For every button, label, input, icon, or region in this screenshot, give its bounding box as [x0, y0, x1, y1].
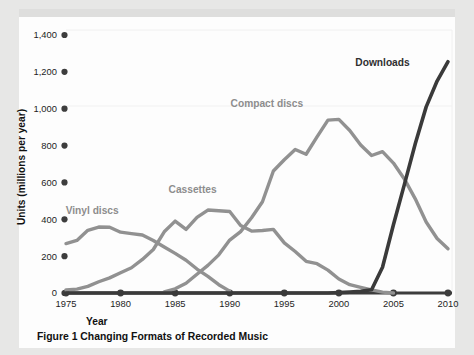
- y-tick-dot: [61, 32, 67, 38]
- y-tick-dot: [61, 106, 67, 112]
- figure-caption: Figure 1 Changing Formats of Recorded Mu…: [37, 331, 268, 342]
- x-tick-label: 1995: [274, 298, 295, 309]
- chart-svg: 02004006008001,0001,2001,400 19751980198…: [0, 0, 474, 355]
- y-tick-label: 1,000: [34, 103, 57, 114]
- x-tick-label: 1990: [219, 298, 240, 309]
- y-tick-dot: [61, 142, 67, 148]
- x-axis-title: Year: [86, 316, 108, 327]
- y-axis-title: Units (millions per year): [16, 109, 27, 225]
- y-axis-ticks: 02004006008001,0001,2001,400: [34, 29, 68, 298]
- y-tick-dot: [61, 253, 67, 259]
- series-line-downloads: [66, 62, 448, 293]
- series-label-vinyl-discs: Vinyl discs: [66, 205, 119, 216]
- y-tick-label: 1,200: [34, 66, 57, 77]
- y-tick-label: 400: [41, 214, 57, 225]
- x-tick-label: 2000: [328, 298, 349, 309]
- x-tick-label: 2005: [383, 298, 404, 309]
- series-labels: Vinyl discsCassettesCompact discsDownloa…: [66, 57, 410, 216]
- series-line-compact-discs: [164, 119, 448, 291]
- series-label-compact-discs: Compact discs: [231, 98, 304, 109]
- x-tick-dot: [445, 290, 452, 297]
- x-tick-label: 2010: [438, 298, 459, 309]
- y-tick-dot: [61, 179, 67, 185]
- figure-container: 02004006008001,0001,2001,400 19751980198…: [0, 0, 474, 355]
- x-tick-label: 1985: [165, 298, 186, 309]
- y-tick-label: 0: [52, 287, 57, 298]
- x-tick-label: 1980: [110, 298, 131, 309]
- y-tick-dot: [61, 69, 67, 75]
- y-tick-label: 800: [41, 140, 57, 151]
- series-label-cassettes: Cassettes: [169, 184, 217, 195]
- series-line-vinyl-discs: [66, 227, 230, 291]
- x-tick-label: 1975: [56, 298, 77, 309]
- y-tick-dot: [61, 216, 67, 222]
- y-tick-label: 200: [41, 251, 57, 262]
- y-tick-label: 1,400: [34, 29, 57, 40]
- series-line-cassettes: [66, 210, 393, 293]
- y-tick-label: 600: [41, 177, 57, 188]
- series-label-downloads: Downloads: [355, 57, 410, 68]
- series-lines: [66, 62, 448, 293]
